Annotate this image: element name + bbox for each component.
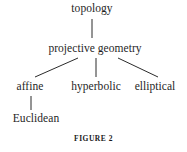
edge-projective-geometry-to-affine [35,58,78,77]
node-elliptical: elliptical [135,80,176,93]
diagram-edges [0,0,187,152]
node-topology: topology [71,2,112,15]
node-hyperbolic: hyperbolic [71,80,121,93]
edge-projective-geometry-to-elliptical [118,58,158,77]
node-euclidean: Euclidean [13,112,59,125]
figure-caption: FIGURE 2 [0,134,187,143]
node-projective-geometry: projective geometry [48,42,141,55]
node-affine: affine [17,80,44,93]
figure-container: topology projective geometry affine hype… [0,0,187,152]
